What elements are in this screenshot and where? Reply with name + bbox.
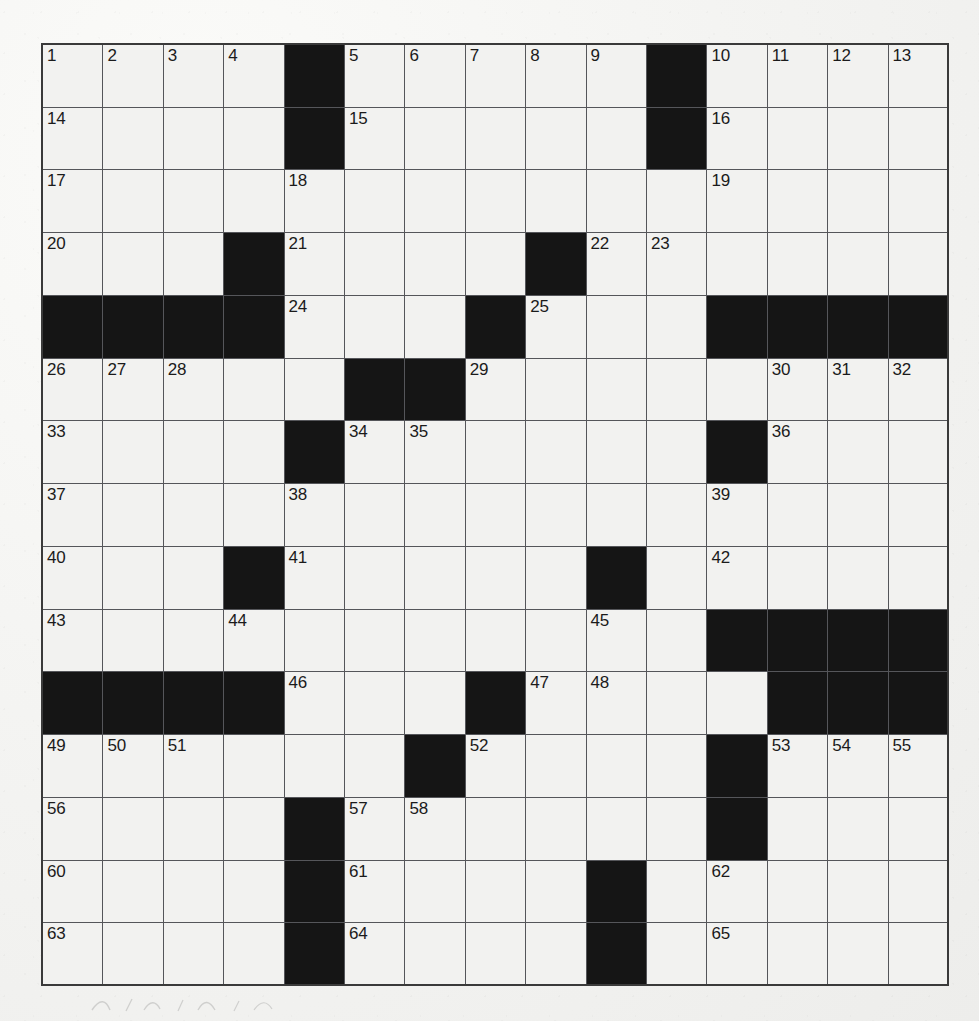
grid-cell[interactable] xyxy=(345,296,405,359)
grid-cell[interactable] xyxy=(526,798,586,861)
grid-cell[interactable]: 17 xyxy=(43,170,103,233)
grid-cell[interactable]: 38 xyxy=(285,484,345,547)
grid-cell[interactable]: 29 xyxy=(466,359,526,422)
grid-cell[interactable] xyxy=(526,547,586,610)
grid-cell[interactable]: 16 xyxy=(707,108,767,171)
grid-cell[interactable]: 52 xyxy=(466,735,526,798)
grid-cell[interactable] xyxy=(345,672,405,735)
grid-cell[interactable]: 63 xyxy=(43,923,103,986)
grid-cell[interactable] xyxy=(587,798,647,861)
grid-cell[interactable] xyxy=(889,233,949,296)
grid-cell[interactable] xyxy=(103,170,163,233)
grid-cell[interactable]: 14 xyxy=(43,108,103,171)
grid-cell[interactable] xyxy=(103,610,163,673)
grid-cell[interactable] xyxy=(647,421,707,484)
grid-cell[interactable] xyxy=(647,359,707,422)
grid-cell[interactable] xyxy=(526,108,586,171)
grid-cell[interactable] xyxy=(828,798,888,861)
grid-cell[interactable]: 49 xyxy=(43,735,103,798)
grid-cell[interactable]: 64 xyxy=(345,923,405,986)
grid-cell[interactable]: 15 xyxy=(345,108,405,171)
grid-cell[interactable] xyxy=(526,170,586,233)
grid-cell[interactable] xyxy=(828,547,888,610)
grid-cell[interactable]: 37 xyxy=(43,484,103,547)
grid-cell[interactable] xyxy=(587,170,647,233)
grid-cell[interactable] xyxy=(405,923,465,986)
grid-cell[interactable] xyxy=(526,484,586,547)
grid-cell[interactable] xyxy=(707,672,767,735)
grid-cell[interactable] xyxy=(103,484,163,547)
grid-cell[interactable] xyxy=(466,484,526,547)
grid-cell[interactable] xyxy=(707,233,767,296)
grid-cell[interactable] xyxy=(466,108,526,171)
grid-cell[interactable] xyxy=(345,484,405,547)
grid-cell[interactable]: 33 xyxy=(43,421,103,484)
grid-cell[interactable] xyxy=(587,359,647,422)
grid-cell[interactable]: 10 xyxy=(707,45,767,108)
grid-cell[interactable] xyxy=(828,861,888,924)
grid-cell[interactable]: 61 xyxy=(345,861,405,924)
grid-cell[interactable] xyxy=(768,233,828,296)
grid-cell[interactable] xyxy=(224,108,284,171)
grid-cell[interactable] xyxy=(405,610,465,673)
grid-cell[interactable] xyxy=(103,108,163,171)
grid-cell[interactable]: 18 xyxy=(285,170,345,233)
grid-cell[interactable] xyxy=(768,861,828,924)
grid-cell[interactable] xyxy=(405,233,465,296)
grid-cell[interactable] xyxy=(647,296,707,359)
grid-cell[interactable] xyxy=(405,484,465,547)
grid-cell[interactable] xyxy=(103,798,163,861)
grid-cell[interactable]: 2 xyxy=(103,45,163,108)
grid-cell[interactable] xyxy=(285,359,345,422)
grid-cell[interactable] xyxy=(164,108,224,171)
grid-cell[interactable] xyxy=(466,923,526,986)
grid-cell[interactable] xyxy=(889,798,949,861)
grid-cell[interactable] xyxy=(405,861,465,924)
grid-cell[interactable]: 13 xyxy=(889,45,949,108)
grid-cell[interactable]: 41 xyxy=(285,547,345,610)
grid-cell[interactable] xyxy=(345,547,405,610)
grid-cell[interactable] xyxy=(647,170,707,233)
grid-cell[interactable] xyxy=(466,610,526,673)
grid-cell[interactable] xyxy=(345,170,405,233)
grid-cell[interactable] xyxy=(224,484,284,547)
grid-cell[interactable]: 54 xyxy=(828,735,888,798)
grid-cell[interactable]: 42 xyxy=(707,547,767,610)
grid-cell[interactable] xyxy=(224,170,284,233)
grid-cell[interactable]: 36 xyxy=(768,421,828,484)
grid-cell[interactable] xyxy=(889,547,949,610)
grid-cell[interactable] xyxy=(768,108,828,171)
grid-cell[interactable]: 19 xyxy=(707,170,767,233)
grid-cell[interactable] xyxy=(587,296,647,359)
grid-cell[interactable] xyxy=(405,547,465,610)
grid-cell[interactable] xyxy=(768,923,828,986)
grid-cell[interactable] xyxy=(828,108,888,171)
grid-cell[interactable]: 5 xyxy=(345,45,405,108)
grid-cell[interactable]: 1 xyxy=(43,45,103,108)
grid-cell[interactable]: 50 xyxy=(103,735,163,798)
grid-cell[interactable]: 22 xyxy=(587,233,647,296)
grid-cell[interactable]: 20 xyxy=(43,233,103,296)
grid-cell[interactable] xyxy=(768,170,828,233)
grid-cell[interactable]: 51 xyxy=(164,735,224,798)
grid-cell[interactable] xyxy=(587,421,647,484)
grid-cell[interactable] xyxy=(526,735,586,798)
grid-cell[interactable] xyxy=(587,108,647,171)
grid-cell[interactable] xyxy=(103,547,163,610)
grid-cell[interactable]: 32 xyxy=(889,359,949,422)
grid-cell[interactable] xyxy=(224,359,284,422)
grid-cell[interactable] xyxy=(164,798,224,861)
grid-cell[interactable] xyxy=(164,170,224,233)
grid-cell[interactable] xyxy=(889,421,949,484)
grid-cell[interactable]: 27 xyxy=(103,359,163,422)
grid-cell[interactable]: 65 xyxy=(707,923,767,986)
grid-cell[interactable] xyxy=(587,484,647,547)
grid-cell[interactable] xyxy=(647,923,707,986)
grid-cell[interactable]: 44 xyxy=(224,610,284,673)
grid-cell[interactable] xyxy=(466,547,526,610)
grid-cell[interactable] xyxy=(224,798,284,861)
grid-cell[interactable] xyxy=(466,170,526,233)
grid-cell[interactable]: 47 xyxy=(526,672,586,735)
grid-cell[interactable] xyxy=(526,861,586,924)
grid-cell[interactable] xyxy=(285,735,345,798)
